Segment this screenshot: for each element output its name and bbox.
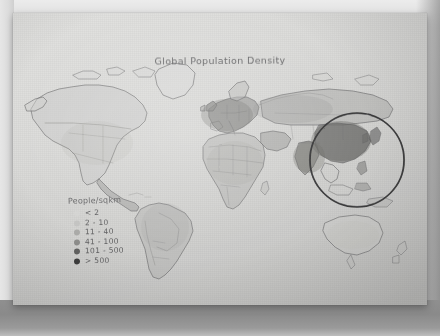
legend-item-4: 101 - 500 xyxy=(74,246,124,256)
legend: People/sqkm < 2 2 - 10 11 - 40 41 - 100 … xyxy=(68,196,124,265)
legend-swatch-2 xyxy=(74,229,80,235)
legend-label-0: < 2 xyxy=(85,208,99,217)
desk-shadow-bottom xyxy=(0,300,440,336)
legend-item-0: < 2 xyxy=(74,208,124,218)
legend-label-5: > 500 xyxy=(85,256,110,265)
photograph-scene: Global Population Density People/sqkm < … xyxy=(0,0,440,336)
legend-swatch-4 xyxy=(74,248,80,254)
legend-item-5: > 500 xyxy=(74,255,124,265)
paper-sheet: Global Population Density People/sqkm < … xyxy=(13,13,427,305)
legend-item-2: 11 - 40 xyxy=(74,227,124,237)
legend-label-4: 101 - 500 xyxy=(85,246,124,256)
legend-label-3: 41 - 100 xyxy=(85,236,119,246)
legend-title: People/sqkm xyxy=(68,195,124,205)
legend-label-1: 2 - 10 xyxy=(85,218,109,227)
legend-swatch-0 xyxy=(74,210,80,216)
legend-swatch-1 xyxy=(74,220,80,226)
legend-label-2: 11 - 40 xyxy=(85,227,114,236)
legend-swatch-3 xyxy=(74,239,80,245)
legend-swatch-5 xyxy=(74,258,80,264)
desk-edge-top xyxy=(0,0,440,13)
desk-edge-left xyxy=(0,0,14,336)
